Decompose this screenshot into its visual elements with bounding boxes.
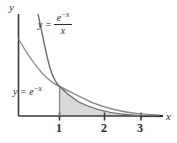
curve-label-exponential: y = e−x [13,87,42,97]
plot-canvas [0,0,177,143]
fraction-denominator: x [58,25,68,36]
numerator-exponent: −x [61,11,69,19]
x-tick-label-3: 3 [137,122,143,134]
fraction-e-over-x: e−x x [54,13,73,36]
x-tick-label-1: 1 [56,122,62,134]
fraction-numerator: e−x [54,13,73,24]
curve-label-quotient: y = e−x x [38,13,72,36]
exp-label-lhs: y = [13,86,29,97]
exp-label-exponent: −x [34,85,42,93]
x-axis-label: x [166,111,171,122]
x-tick-label-2: 2 [101,122,107,134]
math-figure: y x 1 2 3 y = e−x x y = e−x [0,0,177,143]
curve-label-quotient-lhs: y = [38,20,52,30]
curve-exponential [19,39,161,115]
y-axis-label: y [9,2,14,13]
